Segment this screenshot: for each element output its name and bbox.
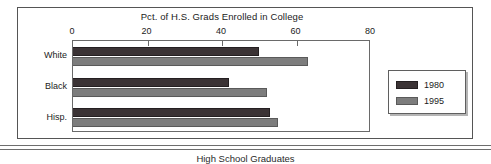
chart-title: Pct. of H.S. Grads Enrolled in College — [72, 11, 372, 22]
footer-divider-top — [0, 145, 491, 146]
plot-area — [72, 40, 370, 132]
x-tick-label: 60 — [290, 26, 300, 36]
legend-label-1980: 1980 — [424, 81, 444, 90]
x-tick-label: 80 — [365, 26, 375, 36]
legend-swatch-1995 — [396, 97, 418, 105]
legend-label-1995: 1995 — [424, 97, 444, 106]
x-tick-label: 0 — [69, 26, 74, 36]
category-label: Black — [45, 81, 67, 91]
bar-1995-White — [73, 57, 308, 66]
bar-1980-Black — [73, 78, 229, 87]
category-label: White — [44, 50, 67, 60]
category-label: Hisp. — [46, 112, 67, 122]
footer-caption: High School Graduates — [0, 153, 491, 164]
bars-layer — [73, 41, 369, 131]
footer-divider-bottom — [0, 149, 491, 150]
x-tick-label: 40 — [216, 26, 226, 36]
legend-item-1980: 1980 — [396, 79, 444, 91]
bar-1995-Hisp. — [73, 118, 278, 127]
chart-legend: 1980 1995 — [388, 70, 466, 114]
legend-swatch-1980 — [396, 81, 418, 89]
legend-item-1995: 1995 — [396, 95, 444, 107]
y-axis-category-labels: WhiteBlackHisp. — [17, 40, 72, 132]
bar-1980-Hisp. — [73, 108, 270, 117]
bar-1980-White — [73, 47, 259, 56]
bar-1995-Black — [73, 88, 267, 97]
x-tick-label: 20 — [141, 26, 151, 36]
chart-figure: Pct. of H.S. Grads Enrolled in College 0… — [0, 0, 491, 164]
x-axis-tick-labels: 020406080 — [0, 26, 491, 38]
